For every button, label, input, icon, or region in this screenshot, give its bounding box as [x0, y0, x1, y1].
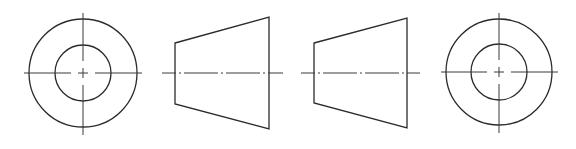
technical-drawing [0, 0, 576, 149]
